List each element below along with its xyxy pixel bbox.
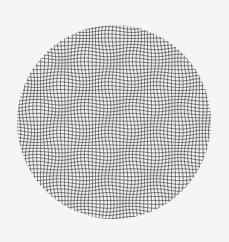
circular-grid-pattern xyxy=(0,0,229,242)
grid-lines xyxy=(13,20,215,223)
distorted-grid-figure xyxy=(0,0,229,242)
grid-path xyxy=(13,20,215,223)
